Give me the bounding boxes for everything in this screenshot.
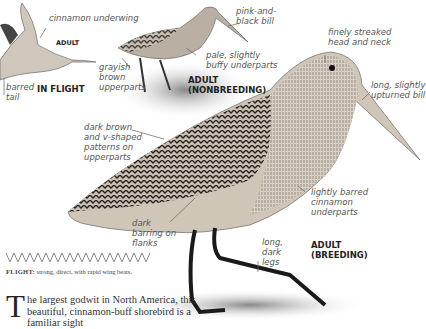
caption-in-flight: IN FLIGHT	[37, 84, 85, 94]
flight-label: FLIGHT:	[6, 268, 35, 275]
caption-adult-breeding: ADULT (BREEDING)	[311, 240, 366, 260]
label-pale-buffy-underparts: pale, slightly buffy underparts	[206, 50, 278, 70]
intro-paragraph: The largest godwit in North America, thi…	[6, 294, 206, 329]
label-pink-and-black-bill: pink-and-black bill	[236, 6, 286, 26]
label-cinnamon-underwing: cinnamon underwing	[49, 13, 139, 23]
label-finely-streaked-head: finely streaked head and neck	[328, 27, 403, 47]
intro-text: he largest godwit in North America, this…	[27, 294, 196, 328]
drop-cap: T	[6, 295, 25, 319]
label-dark-barring-flanks: dark barring on flanks	[132, 218, 177, 248]
flight-description: FLIGHT: strong, direct, with rapid wing …	[6, 268, 132, 275]
caption-flight-adult: ADULT	[56, 38, 79, 48]
label-upturned-bill: long, slightly upturned bill	[371, 80, 426, 100]
flight-pattern-zigzag	[6, 253, 150, 262]
label-barred-tail: barred tail	[6, 82, 36, 102]
label-cinnamon-underparts: lightly barred cinnamon underparts	[311, 187, 371, 217]
caption-adult-nonbreeding: ADULT (NONBREEDING)	[188, 75, 268, 95]
label-grayish-brown-upperparts: grayish brown upperparts	[99, 62, 149, 92]
flight-text: strong, direct, with rapid wing beats.	[35, 268, 132, 275]
label-long-dark-legs: long, dark legs	[262, 237, 300, 267]
label-upperparts-patterns: dark brown and v-shaped patterns on uppe…	[84, 122, 150, 162]
